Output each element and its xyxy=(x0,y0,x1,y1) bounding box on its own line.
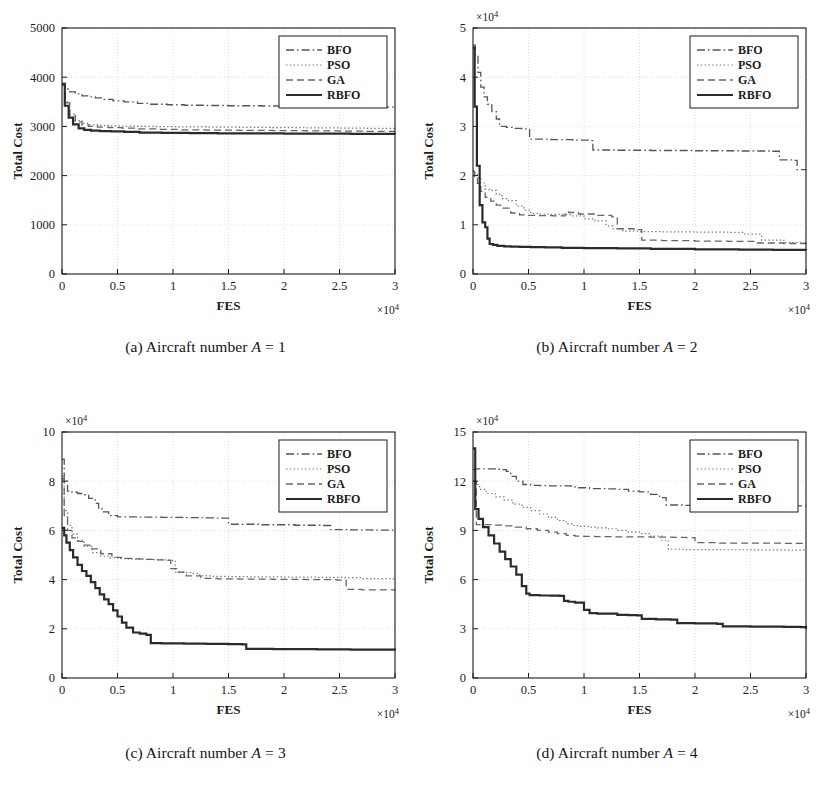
caption-a-var: A xyxy=(252,338,262,355)
chart-d: 0369121500.511.522.53FESTotal Cost×104×1… xyxy=(411,404,822,734)
xtick-label: 0 xyxy=(59,279,65,293)
y-axis-label: Total Cost xyxy=(421,526,436,584)
caption-b-suffix: = 2 xyxy=(673,338,698,355)
x-axis-multiplier: ×104 xyxy=(788,706,811,720)
y-axis-multiplier: ×104 xyxy=(476,9,499,23)
legend-label-ga: GA xyxy=(327,477,345,491)
ytick-label: 10 xyxy=(43,425,56,439)
ytick-label: 2000 xyxy=(30,169,55,183)
legend-label-bfo: BFO xyxy=(327,43,352,57)
chart-c: 024681000.511.522.53FESTotal Cost×104×10… xyxy=(0,404,411,734)
legend-label-ga: GA xyxy=(327,73,345,87)
x-axis-label: FES xyxy=(628,702,652,717)
xtick-label: 0 xyxy=(470,683,476,697)
xtick-label: 3 xyxy=(392,683,398,697)
xtick-label: 2 xyxy=(281,683,287,697)
legend-label-pso: PSO xyxy=(327,58,350,72)
x-axis-multiplier: ×104 xyxy=(377,302,400,316)
legend-label-pso: PSO xyxy=(738,462,761,476)
ytick-label: 5 xyxy=(460,21,466,35)
ytick-label: 3 xyxy=(460,120,466,134)
xtick-label: 0.5 xyxy=(521,279,537,293)
xtick-label: 2.5 xyxy=(743,683,759,697)
x-axis-multiplier: ×104 xyxy=(788,302,811,316)
xtick-label: 0 xyxy=(59,683,65,697)
legend: BFOPSOGARBFO xyxy=(690,36,798,108)
figure-grid: 01000200030004000500000.511.522.53FESTot… xyxy=(0,0,823,793)
ytick-label: 4 xyxy=(460,71,467,85)
legend-label-ga: GA xyxy=(738,73,756,87)
xtick-label: 0 xyxy=(470,279,476,293)
y-axis-multiplier: ×104 xyxy=(65,413,88,427)
ytick-label: 6 xyxy=(49,524,55,538)
caption-b: (b) Aircraft number A = 2 xyxy=(411,338,823,356)
legend-label-pso: PSO xyxy=(327,462,350,476)
chart-b: 01234500.511.522.53FESTotal Cost×104×104… xyxy=(411,0,822,330)
caption-d: (d) Aircraft number A = 4 xyxy=(411,744,823,762)
plot-area-a: 01000200030004000500000.511.522.53FESTot… xyxy=(0,0,411,330)
legend: BFOPSOGARBFO xyxy=(279,440,387,512)
ytick-label: 8 xyxy=(49,475,55,489)
legend-label-rbfo: RBFO xyxy=(738,88,771,102)
caption-a: (a) Aircraft number A = 1 xyxy=(0,338,411,356)
xtick-label: 0.5 xyxy=(521,683,537,697)
ytick-label: 4 xyxy=(49,573,56,587)
legend-label-rbfo: RBFO xyxy=(327,492,360,506)
panel-d: 0369121500.511.522.53FESTotal Cost×104×1… xyxy=(411,396,823,793)
ytick-label: 1000 xyxy=(30,218,55,232)
x-axis-label: FES xyxy=(217,702,241,717)
y-axis-label: Total Cost xyxy=(421,122,436,180)
caption-b-var: A xyxy=(664,338,674,355)
legend-label-ga: GA xyxy=(738,477,756,491)
xtick-label: 2 xyxy=(692,279,698,293)
caption-d-suffix: = 4 xyxy=(673,744,698,761)
xtick-label: 0.5 xyxy=(110,683,126,697)
x-axis-label: FES xyxy=(628,298,652,313)
plot-area-b: 01234500.511.522.53FESTotal Cost×104×104… xyxy=(411,0,823,330)
caption-a-suffix: = 1 xyxy=(261,338,286,355)
ytick-label: 9 xyxy=(460,524,466,538)
legend-label-pso: PSO xyxy=(738,58,761,72)
xtick-label: 1 xyxy=(170,279,176,293)
xtick-label: 2.5 xyxy=(743,279,759,293)
caption-c-suffix: = 3 xyxy=(261,744,286,761)
ytick-label: 12 xyxy=(454,475,467,489)
legend: BFOPSOGARBFO xyxy=(279,36,387,108)
legend-label-bfo: BFO xyxy=(738,447,763,461)
xtick-label: 3 xyxy=(392,279,398,293)
plot-area-c: 024681000.511.522.53FESTotal Cost×104×10… xyxy=(0,404,411,734)
ytick-label: 5000 xyxy=(30,21,55,35)
ytick-label: 3 xyxy=(460,622,466,636)
xtick-label: 2 xyxy=(281,279,287,293)
ytick-label: 4000 xyxy=(30,71,55,85)
xtick-label: 1.5 xyxy=(221,279,237,293)
y-axis-label: Total Cost xyxy=(10,526,25,584)
caption-b-prefix: (b) Aircraft number xyxy=(536,338,663,355)
caption-c-prefix: (c) Aircraft number xyxy=(125,744,251,761)
panel-a: 01000200030004000500000.511.522.53FESTot… xyxy=(0,0,411,396)
xtick-label: 1 xyxy=(581,279,587,293)
xtick-label: 1.5 xyxy=(632,683,648,697)
xtick-label: 2.5 xyxy=(332,279,348,293)
x-axis-label: FES xyxy=(217,298,241,313)
x-axis-multiplier: ×104 xyxy=(377,706,400,720)
xtick-label: 1 xyxy=(581,683,587,697)
ytick-label: 6 xyxy=(460,573,466,587)
xtick-label: 1.5 xyxy=(221,683,237,697)
ytick-label: 3000 xyxy=(30,120,55,134)
caption-d-var: A xyxy=(664,744,674,761)
ytick-label: 0 xyxy=(460,267,466,281)
ytick-label: 15 xyxy=(454,425,467,439)
legend: BFOPSOGARBFO xyxy=(690,440,798,512)
ytick-label: 2 xyxy=(49,622,55,636)
legend-label-bfo: BFO xyxy=(738,43,763,57)
ytick-label: 0 xyxy=(49,671,55,685)
panel-b: 01234500.511.522.53FESTotal Cost×104×104… xyxy=(411,0,823,396)
xtick-label: 2 xyxy=(692,683,698,697)
legend-label-rbfo: RBFO xyxy=(327,88,360,102)
y-axis-multiplier: ×104 xyxy=(476,413,499,427)
ytick-label: 0 xyxy=(49,267,55,281)
caption-c: (c) Aircraft number A = 3 xyxy=(0,744,411,762)
ytick-label: 0 xyxy=(460,671,466,685)
xtick-label: 3 xyxy=(803,683,809,697)
